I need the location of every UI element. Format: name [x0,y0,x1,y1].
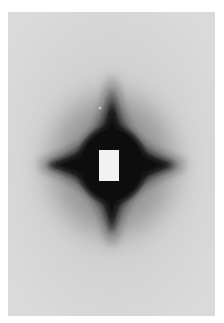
beam-stop [99,150,119,181]
diffraction-photo [8,12,215,316]
speck [99,107,102,110]
diffraction-pattern [8,12,215,316]
